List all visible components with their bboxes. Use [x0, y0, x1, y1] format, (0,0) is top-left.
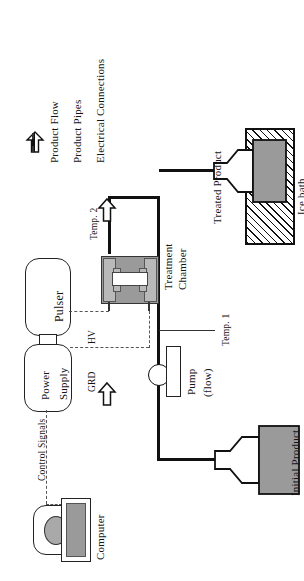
computer-label: Computer [95, 514, 106, 560]
power-supply-label-line2: Supply [58, 368, 69, 400]
hv-connection-line [69, 311, 109, 312]
temp-2-label: Temp. 2 [90, 208, 100, 240]
legend-label-product-pipes: Product Pipes [72, 100, 83, 163]
initial-product-label: Initial Product [290, 430, 301, 496]
ice-bath-label: Ice bath [296, 178, 304, 215]
grd-label: GRD [88, 371, 98, 392]
flow-arrow-inlet-icon [98, 382, 116, 406]
grd-connection-riser [149, 311, 150, 348]
control-signals-label: Control Signals [38, 419, 48, 481]
flow-arrow-outlet-icon [98, 198, 116, 222]
legend-product-flow-arrow-icon [26, 131, 44, 153]
legend-electrical-connections-dash-icon [32, 133, 34, 152]
power-supply-label-line1: Power [40, 371, 51, 400]
grd-connection-line [70, 347, 149, 348]
treated-product-label: Treated Product [212, 151, 223, 224]
treatment-chamber-label-line1: Treatment [163, 243, 174, 290]
pump-label-line2: (flow) [202, 368, 213, 397]
pipe-main-vertical [157, 196, 160, 460]
treatment-chamber-gap [112, 272, 148, 286]
treatment-chamber-grd-terminal [148, 302, 150, 311]
treated-product-container [213, 139, 291, 205]
pump-label-line1: Pump [186, 369, 197, 395]
computer-base-fill [66, 503, 86, 557]
legend-label-electrical-connections: Electrical Connections [95, 59, 106, 163]
hv-label: HV [88, 330, 98, 344]
pipe-from-initial-product [157, 458, 215, 461]
pipe-treated-product-branch [159, 169, 215, 172]
treatment-chamber-label-line2: Chamber [177, 248, 188, 290]
initial-product-container [214, 421, 300, 499]
temp-1-label: Temp. 1 [222, 314, 232, 346]
treatment-chamber-hv-terminal [108, 302, 110, 311]
legend-label-product-flow: Product Flow [49, 101, 60, 163]
temp-1-probe-line [159, 330, 215, 331]
diagram-canvas: Product Flow Product Pipes Electrical Co… [0, 0, 304, 581]
pulser-label: Pulser [53, 291, 65, 322]
pump-body [166, 346, 181, 397]
